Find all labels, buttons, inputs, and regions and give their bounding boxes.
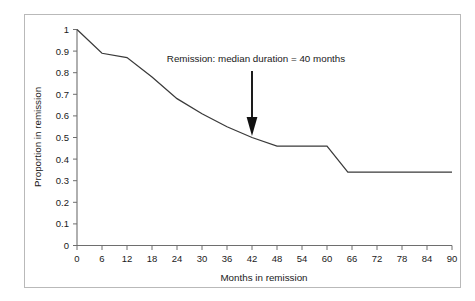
y-axis-ticks [73, 30, 77, 246]
figure-container: 1 0.9 0.8 0.7 0.6 0.5 0.4 0.3 0.2 0.1 0 [0, 0, 475, 301]
x-tick-label: 36 [222, 253, 233, 264]
x-tick-label: 42 [247, 253, 258, 264]
y-tick-label: 0.5 [56, 132, 69, 143]
y-tick-label: 0.7 [56, 89, 69, 100]
x-tick-label: 72 [372, 253, 383, 264]
x-tick-label: 30 [197, 253, 208, 264]
x-tick-label: 90 [447, 253, 458, 264]
x-tick-label: 54 [297, 253, 308, 264]
y-tick-label: 0.4 [56, 154, 69, 165]
y-tick-label: 0.6 [56, 110, 69, 121]
y-tick-label: 1 [64, 24, 69, 35]
chart-svg: 1 0.9 0.8 0.7 0.6 0.5 0.4 0.3 0.2 0.1 0 [0, 0, 475, 301]
y-tick-label: 0.1 [56, 218, 69, 229]
x-axis-title: Months in remission [220, 272, 307, 283]
y-axis-tick-labels: 1 0.9 0.8 0.7 0.6 0.5 0.4 0.3 0.2 0.1 0 [56, 24, 69, 251]
y-axis-title: Proportion in remission [32, 87, 43, 187]
x-axis-tick-labels: 0 6 12 18 24 30 36 42 48 54 60 66 72 78 … [74, 253, 457, 264]
y-tick-label: 0.9 [56, 46, 69, 57]
x-tick-label: 24 [172, 253, 183, 264]
x-tick-label: 48 [272, 253, 283, 264]
x-tick-label: 12 [122, 253, 133, 264]
x-axis-ticks [77, 246, 452, 251]
annotation-arrow-icon [247, 71, 258, 136]
y-tick-label: 0 [64, 240, 69, 251]
y-tick-label: 0.2 [56, 197, 69, 208]
x-tick-label: 66 [347, 253, 358, 264]
x-tick-label: 0 [74, 253, 79, 264]
x-tick-label: 18 [147, 253, 158, 264]
y-tick-label: 0.3 [56, 175, 69, 186]
x-tick-label: 6 [99, 253, 104, 264]
annotation-label: Remission: median duration = 40 months [167, 53, 345, 64]
x-tick-label: 84 [422, 253, 433, 264]
x-tick-label: 78 [397, 253, 408, 264]
x-tick-label: 60 [322, 253, 333, 264]
remission-curve [77, 30, 452, 173]
y-tick-label: 0.8 [56, 67, 69, 78]
